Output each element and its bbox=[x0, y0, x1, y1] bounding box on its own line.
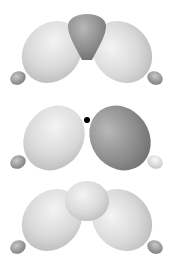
right-small-lobe bbox=[145, 238, 165, 257]
node-marker bbox=[84, 117, 90, 123]
right-lobe bbox=[77, 94, 164, 183]
left-small-lobe bbox=[8, 153, 28, 172]
orbital-middle bbox=[8, 94, 165, 183]
orbital-top bbox=[8, 9, 165, 96]
orbital-figure bbox=[0, 0, 175, 267]
orbital-diagram-svg bbox=[0, 0, 175, 267]
left-small-lobe bbox=[8, 238, 28, 257]
center-lobe bbox=[65, 181, 109, 221]
orbital-bottom bbox=[8, 177, 165, 264]
left-lobe bbox=[11, 94, 98, 183]
left-small-lobe bbox=[8, 69, 28, 88]
